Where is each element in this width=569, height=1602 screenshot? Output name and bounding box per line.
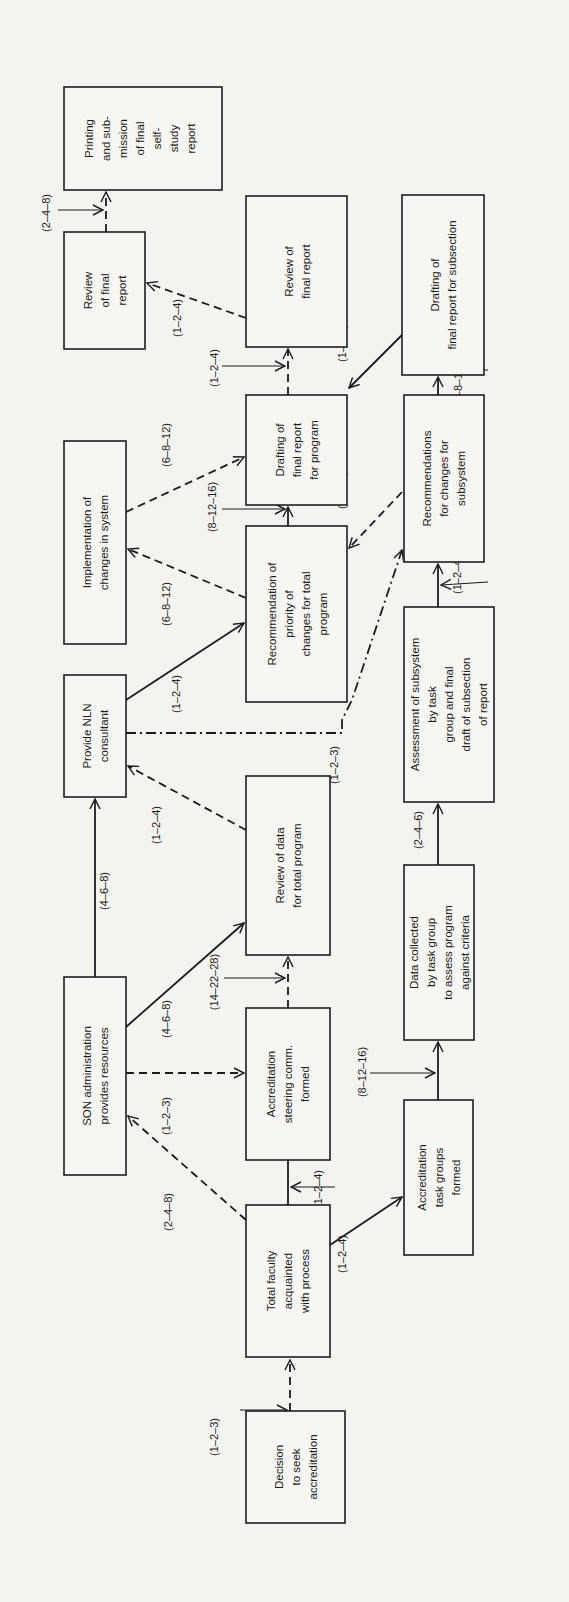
node-text: of report: [477, 682, 489, 726]
node-text: SON administration: [81, 1026, 93, 1126]
node-text: provides resources: [98, 1027, 110, 1124]
label-review-review: (1–2–4): [171, 299, 183, 337]
edge-total-son: [128, 1116, 246, 1220]
node-text: Drafting of: [274, 423, 286, 477]
node-text: by task: [426, 686, 438, 723]
tick-arrow: [441, 582, 488, 585]
node-text: Printing: [83, 119, 95, 158]
node-text: priority of: [283, 590, 295, 638]
node-text: Total faculty: [265, 1250, 277, 1311]
label-total-steering: (1–2–4): [312, 1170, 324, 1208]
node-text: for program: [308, 420, 320, 479]
label-son-nln: (4–6–8): [98, 872, 110, 910]
node-text: to assess program: [442, 905, 454, 1000]
node-review-final-small: Review of final report: [64, 232, 145, 349]
node-text: and sub-: [100, 116, 112, 161]
node-text: subsystem: [455, 451, 467, 506]
node-text: to seek: [290, 1448, 302, 1485]
node-text: report: [185, 123, 197, 154]
node-text: Assessment of subsystem: [409, 638, 421, 772]
nodes: Printing and sub- mission of final self-…: [64, 87, 494, 1523]
node-drafting-program: Drafting of final report for program: [246, 395, 347, 505]
node-text: Decision: [273, 1445, 285, 1489]
label-data-assessment: (2–4–6): [412, 811, 424, 849]
label-recpriority-drafting: (8–12–16): [206, 482, 218, 532]
label-impl-drafting: (6–8–12): [160, 423, 172, 467]
node-text: final report: [291, 422, 303, 477]
node-text: Accreditation: [416, 1144, 428, 1210]
node-text: formed: [299, 1066, 311, 1102]
node-text: by task group: [425, 918, 437, 987]
label-review-printing: (2–4–8): [40, 194, 52, 232]
node-nln-consultant: Provide NLN consultant: [64, 675, 126, 797]
node-drafting-subsection: Drafting of final report for subsection: [402, 195, 484, 375]
node-text: task groups: [433, 1148, 445, 1208]
node-printing: Printing and sub- mission of final self-…: [64, 87, 222, 190]
node-text: Review: [82, 271, 94, 309]
node-decision: Decision to seek accreditation: [246, 1411, 345, 1523]
node-assessment: Assessment of subsystem by task group an…: [404, 607, 494, 802]
node-text: of final: [99, 274, 111, 308]
node-text: draft of subsection: [460, 658, 472, 752]
node-text: changes in system: [98, 495, 110, 590]
node-implementation: Implementation of changes in system: [64, 441, 126, 644]
label-total-son: (2–4–8): [162, 1193, 174, 1231]
edge-nln-recpriority: [126, 623, 244, 700]
node-text: Implementation of: [81, 496, 93, 588]
node-text: acquainted: [282, 1253, 294, 1309]
node-text: self-: [151, 127, 163, 149]
node-rec-subsystem: Recommendations for changes for subsyste…: [404, 395, 484, 562]
node-text: Drafting of: [429, 258, 441, 312]
node-text: Accreditation: [265, 1051, 277, 1117]
node-text: study: [168, 125, 180, 153]
node-text: accreditation: [307, 1434, 319, 1499]
node-text: for total program: [291, 823, 303, 907]
node-review-data: Review of data for total program: [246, 776, 330, 955]
node-text: group and final: [443, 666, 455, 742]
node-text: for changes for: [438, 440, 450, 517]
edge-draftsub-draftprog: [349, 335, 402, 388]
edge-son-reviewdata: [126, 923, 244, 1027]
node-text: Recommendation of: [266, 562, 278, 666]
node-text: consultant: [98, 709, 110, 762]
edge-recpriority-impl: [128, 549, 246, 598]
edge-impl-drafting: [126, 457, 244, 512]
node-text: formed: [450, 1160, 462, 1196]
node-text: final report for subsection: [446, 220, 458, 349]
node-text: program: [317, 593, 329, 636]
label-total-taskgroups: (1–2–4): [336, 1235, 348, 1273]
edge-review-review: [147, 283, 246, 318]
node-son-admin: SON administration provides resources: [64, 977, 126, 1175]
edge-reviewdata-nln: [128, 766, 246, 830]
node-steering-committee: Accreditation steering comm. formed: [246, 1008, 330, 1160]
node-text: of final: [134, 122, 146, 156]
node-data-collected: Data collected by task group to assess p…: [404, 865, 474, 1040]
node-task-groups: Accreditation task groups formed: [404, 1100, 473, 1255]
node-review-final-large: Review of final report: [246, 196, 347, 347]
label-recpriority-impl: (6–8–12): [160, 582, 172, 626]
node-text: Review of: [283, 245, 295, 296]
label-draftprog-review: (1–2–4): [208, 349, 220, 387]
label-taskgroups-data: (8–12–16): [356, 1047, 368, 1097]
node-text: report: [116, 275, 128, 306]
node-total-faculty: Total faculty acquainted with process: [246, 1205, 330, 1357]
node-text: mission: [117, 119, 129, 158]
node-text: against criteria: [459, 915, 471, 990]
node-text: with process: [299, 1249, 311, 1314]
label-decision-total: (1–2–3): [208, 1418, 220, 1456]
node-text: changes for total: [300, 571, 312, 656]
node-rec-priority: Recommendation of priority of changes fo…: [246, 526, 347, 702]
label-son-reviewdata: (4–6–8): [160, 1000, 172, 1038]
node-text: Review of data: [274, 827, 286, 904]
edge-recsub-recpriority: [349, 492, 402, 548]
pert-diagram: (1–2–3) (2–4–8) (1–2–4) (1–2–4) (1–2–3) …: [0, 0, 569, 1602]
label-son-steering: (1–2–3): [160, 1097, 172, 1135]
node-text: Recommendations: [421, 430, 433, 526]
label-nln-recpriority: (1–2–4): [170, 675, 182, 713]
node-text: Data collected: [408, 916, 420, 989]
label-steering-reviewdata: (14–22–28): [208, 954, 220, 1010]
node-text: steering comm.: [282, 1045, 294, 1124]
node-text: Provide NLN: [81, 703, 93, 768]
label-reviewdata-nln: (1–2–4): [150, 806, 162, 844]
node-text: final report: [300, 244, 312, 299]
